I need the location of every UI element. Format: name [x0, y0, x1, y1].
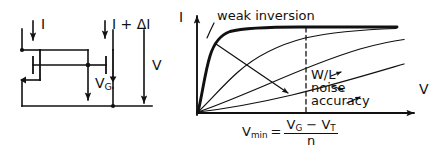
- current-out-label: I + ΔI: [112, 17, 150, 31]
- gate-voltage-symbol: V: [95, 75, 105, 91]
- vmin-fraction: VG − VTn: [284, 118, 337, 145]
- weak-inversion-leader: [207, 23, 214, 38]
- gate-voltage-subscript: G: [105, 81, 112, 92]
- left-transistor-source-arrow: [20, 77, 26, 84]
- vmin-num-sub-g: G: [295, 123, 302, 133]
- trend-arrow-down: [216, 44, 288, 93]
- vmin-num-sub-t: T: [330, 123, 335, 133]
- circuit-diagram: [20, 21, 152, 108]
- x-axis-label: V: [419, 82, 429, 96]
- vmin-numerator: VG − VT: [284, 118, 337, 134]
- vmin-equals: =: [268, 124, 285, 139]
- vmin-formula: Vmin=VG − VTn: [242, 118, 338, 145]
- weak-inversion-annotation: weak inversion: [217, 9, 315, 22]
- gate-voltage-label: VG: [95, 76, 112, 92]
- vmin-symbol: V: [242, 124, 251, 139]
- curve-4: [198, 64, 404, 112]
- y-axis-label: I: [179, 10, 183, 24]
- accuracy-annotation: accuracy: [311, 94, 370, 107]
- output-voltage-label: V: [152, 58, 162, 72]
- figure-root: I I + ΔI VG V I V weak inversion W/L noi…: [0, 0, 443, 145]
- node-dot-left: [20, 48, 24, 52]
- node-dot-right-rail: [111, 104, 115, 108]
- current-in-label: I: [41, 17, 45, 31]
- vmin-denominator: n: [284, 134, 337, 145]
- vmin-subscript: min: [251, 130, 268, 140]
- iv-plot: [197, 16, 414, 115]
- curve-3: [198, 40, 404, 113]
